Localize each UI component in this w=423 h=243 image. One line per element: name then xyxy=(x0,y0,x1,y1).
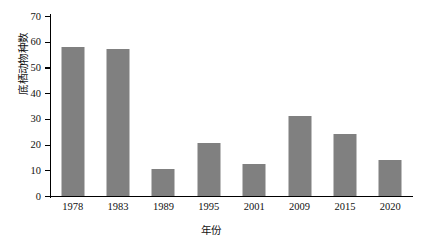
bar xyxy=(61,47,84,196)
bar xyxy=(197,143,220,196)
bar xyxy=(152,169,175,196)
x-axis-tick-label: 1983 xyxy=(108,202,129,213)
y-axis-tick-label: 60 xyxy=(31,37,42,48)
y-axis-tick-label: 10 xyxy=(31,166,42,177)
bar-group: 1989 xyxy=(141,16,186,196)
y-axis-tick-label: 50 xyxy=(31,63,42,74)
bar xyxy=(243,164,266,196)
y-axis-tick-label: 0 xyxy=(36,191,41,202)
y-axis-tick: 0 xyxy=(45,196,50,197)
y-axis-tick-label: 40 xyxy=(31,88,42,99)
plot-area: 010203040506070 197819831989199520012009… xyxy=(50,16,413,196)
bar-group: 2001 xyxy=(232,16,277,196)
bar-series: 19781983198919952001200920152020 xyxy=(50,16,413,196)
x-axis-tick-label: 2001 xyxy=(244,202,265,213)
bar-group: 1978 xyxy=(50,16,95,196)
y-axis-tick-label: 30 xyxy=(31,114,42,125)
x-axis-tick-label: 2020 xyxy=(380,202,401,213)
bar-chart-figure: 底栖动物种数 010203040506070 19781983198919952… xyxy=(0,0,423,243)
bar xyxy=(379,160,402,196)
x-axis-tick-label: 1995 xyxy=(198,202,219,213)
x-axis-tick-label: 2015 xyxy=(334,202,355,213)
bar xyxy=(333,134,356,196)
bar-group: 2009 xyxy=(277,16,322,196)
bar xyxy=(288,116,311,196)
x-axis-tick-label: 2009 xyxy=(289,202,310,213)
y-axis-title: 底栖动物种数 xyxy=(15,4,30,124)
x-axis-title: 年份 xyxy=(0,222,423,237)
bar-group: 1995 xyxy=(186,16,231,196)
bar-group: 2015 xyxy=(322,16,367,196)
y-axis-tick-label: 70 xyxy=(31,11,42,22)
x-axis-tick-label: 1978 xyxy=(62,202,83,213)
bar-group: 2020 xyxy=(368,16,413,196)
y-axis-tick-label: 20 xyxy=(31,140,42,151)
x-axis-tick-label: 1989 xyxy=(153,202,174,213)
bar-group: 1983 xyxy=(95,16,140,196)
bar xyxy=(107,49,130,196)
